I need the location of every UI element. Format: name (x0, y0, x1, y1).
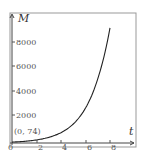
exponential-growth-chart: M t 2000 4000 6000 8000 2 4 6 8 0 (0, 74… (0, 0, 142, 159)
x-tick-label: 2 (38, 143, 43, 152)
y-tick-label: 4000 (16, 87, 36, 96)
y-axis-label: M (17, 12, 30, 25)
point-annotation: (0, 74) (14, 127, 41, 136)
origin-label: 0 (8, 143, 13, 152)
y-tick-label: 8000 (16, 38, 36, 47)
x-tick-label: 6 (87, 143, 92, 152)
y-ticks: 2000 4000 6000 8000 (12, 38, 36, 120)
x-ticks: 2 4 6 8 (37, 140, 116, 152)
y-tick-label: 2000 (16, 111, 36, 120)
x-tick-label: 8 (111, 143, 116, 152)
y-tick-label: 6000 (16, 62, 36, 71)
x-axis-label: t (129, 125, 134, 138)
x-tick-label: 4 (62, 143, 67, 152)
